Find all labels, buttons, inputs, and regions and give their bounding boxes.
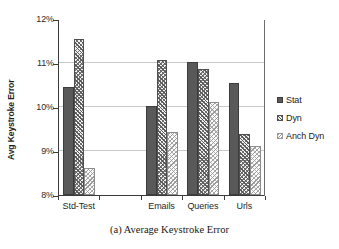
legend-swatch-icon <box>277 133 283 139</box>
legend-item-dyn[interactable]: Dyn <box>277 110 337 125</box>
legend-item-anch-dyn[interactable]: Anch Dyn <box>277 128 337 143</box>
legend-swatch-icon <box>277 97 283 103</box>
x-tick-mark <box>141 196 142 200</box>
bar-stat-urls <box>229 83 240 195</box>
y-tick-label: 11% <box>14 59 54 68</box>
bar-stat-emails <box>146 106 157 195</box>
legend-label: Anch Dyn <box>286 131 324 141</box>
bar-anch-dyn-emails <box>167 132 178 195</box>
bar-dyn-queries <box>198 69 209 195</box>
x-tick-mark <box>58 196 59 200</box>
y-tick-label: 9% <box>14 147 54 156</box>
bar-dyn-std-test <box>74 39 85 195</box>
y-tick-label: 12% <box>14 15 54 24</box>
x-tick-mark <box>265 196 266 200</box>
bar-anch-dyn-std-test <box>84 168 95 195</box>
plot-frame-right <box>264 20 265 196</box>
bar-stat-queries <box>187 62 198 195</box>
bar-dyn-urls <box>239 134 250 195</box>
y-tick-label: 8% <box>14 191 54 200</box>
figure-caption: (a) Average Keystroke Error <box>0 223 339 236</box>
x-tick-mark <box>182 196 183 200</box>
chart-legend: StatDynAnch Dyn <box>277 92 337 146</box>
bar-dyn-emails <box>157 60 168 195</box>
x-tick-label-std-test: Std-Test <box>48 201 109 212</box>
bar-stat-std-test <box>63 87 74 195</box>
legend-item-stat[interactable]: Stat <box>277 92 337 107</box>
x-tick-mark <box>99 196 100 200</box>
legend-swatch-icon <box>277 115 283 121</box>
bar-anch-dyn-queries <box>209 102 220 195</box>
bar-anch-dyn-urls <box>250 146 261 195</box>
x-tick-mark <box>224 196 225 200</box>
figure-average-keystroke-error: Avg Keystroke Error 8%9%10%11%12% Std-Te… <box>0 0 339 249</box>
legend-label: Stat <box>286 95 302 105</box>
legend-label: Dyn <box>286 113 302 123</box>
x-tick-label-urls: Urls <box>214 201 275 212</box>
y-tick-label: 10% <box>14 103 54 112</box>
plot-area <box>58 20 265 196</box>
